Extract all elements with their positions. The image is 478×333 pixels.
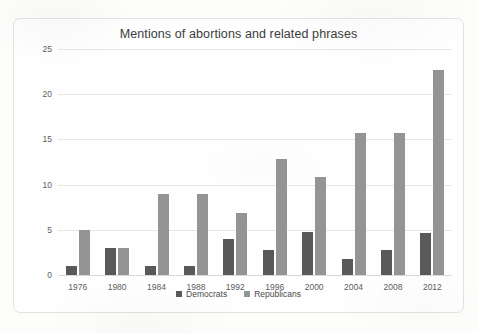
y-axis-tick-label: 0: [47, 270, 52, 280]
bar-democrats-2012: [420, 233, 431, 275]
bar-republicans-2000: [315, 177, 326, 275]
chart-title: Mentions of abortions and related phrase…: [14, 27, 463, 41]
bar-groups: 1976198019841988199219962000200420082012: [58, 49, 452, 275]
y-axis-tick-label: 15: [43, 134, 52, 144]
y-axis-tick-label: 10: [43, 180, 52, 190]
bar-democrats-2008: [381, 250, 392, 275]
bar-democrats-1992: [223, 239, 234, 275]
legend-label: Republicans: [254, 289, 301, 299]
chart-container: Mentions of abortions and related phrase…: [13, 18, 464, 313]
bar-group: 1984: [137, 49, 176, 275]
y-axis-tick-label: 5: [47, 225, 52, 235]
legend-swatch-republicans: [244, 291, 250, 297]
bar-republicans-2004: [355, 133, 366, 275]
bar-group: 2000: [294, 49, 333, 275]
bar-republicans-1988: [197, 194, 208, 275]
bar-democrats-1996: [263, 250, 274, 275]
bar-republicans-1996: [276, 159, 287, 275]
legend-item-democrats: Democrats: [176, 289, 227, 299]
bar-democrats-1984: [145, 266, 156, 275]
plot-area: 0510152025 19761980198419881992199620002…: [58, 49, 452, 275]
legend-item-republicans: Republicans: [244, 289, 301, 299]
bar-group: 1996: [255, 49, 294, 275]
bar-democrats-2004: [342, 259, 353, 275]
bar-group: 2012: [413, 49, 452, 275]
legend-swatch-democrats: [176, 291, 182, 297]
gridline-0: 0: [58, 275, 452, 276]
bar-democrats-2000: [302, 232, 313, 275]
bar-democrats-1980: [105, 248, 116, 275]
chart-legend: DemocratsRepublicans: [14, 289, 463, 299]
bar-democrats-1988: [184, 266, 195, 275]
bar-republicans-2008: [394, 133, 405, 275]
bar-group: 1992: [216, 49, 255, 275]
y-axis-tick-label: 25: [43, 44, 52, 54]
bar-republicans-1984: [158, 194, 169, 275]
bar-republicans-1992: [236, 213, 247, 275]
legend-label: Democrats: [186, 289, 227, 299]
bar-republicans-2012: [433, 70, 444, 275]
y-axis-tick-label: 20: [43, 89, 52, 99]
bar-democrats-1976: [66, 266, 77, 275]
bar-group: 1980: [97, 49, 136, 275]
bar-republicans-1976: [79, 230, 90, 275]
bar-group: 2008: [373, 49, 412, 275]
bar-group: 1988: [176, 49, 215, 275]
bar-group: 1976: [58, 49, 97, 275]
bar-republicans-1980: [118, 248, 129, 275]
bar-group: 2004: [334, 49, 373, 275]
